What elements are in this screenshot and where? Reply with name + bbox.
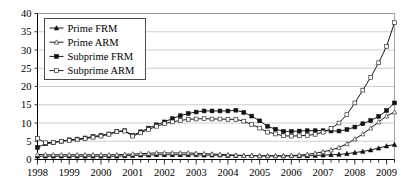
data-point-marker [377, 61, 381, 65]
chart-legend: Prime FRMPrime ARMSubprime FRMSubprime A… [45, 19, 146, 80]
x-tick-label: 2004 [217, 167, 239, 178]
data-point-marker [91, 135, 95, 139]
y-axis-ticks: 0510152025303540 [21, 8, 38, 165]
data-point-marker [385, 44, 389, 48]
data-point-marker [258, 126, 262, 130]
data-point-marker [234, 108, 238, 112]
data-point-marker [194, 117, 198, 121]
data-point-marker [369, 119, 373, 123]
legend-marker-icon [55, 55, 59, 59]
y-tick-label: 20 [21, 81, 32, 92]
data-point-marker [282, 134, 286, 138]
x-tick-label: 2003 [186, 167, 207, 178]
y-tick-label: 40 [21, 8, 32, 19]
data-point-marker [353, 137, 357, 141]
data-point-marker [345, 113, 349, 117]
data-point-marker [305, 129, 309, 133]
delinquency-rate-line-chart: 0510152025303540 19981999200020012002200… [0, 0, 406, 195]
legend-item-label: Subprime ARM [68, 65, 135, 76]
data-point-marker [266, 130, 270, 134]
data-point-marker [392, 110, 396, 114]
data-point-marker [59, 139, 63, 143]
data-point-marker [115, 130, 119, 134]
data-point-marker [345, 128, 349, 132]
data-point-marker [210, 109, 214, 113]
data-point-marker [274, 127, 278, 131]
data-point-marker [274, 132, 278, 136]
data-point-marker [67, 139, 71, 143]
data-point-marker [313, 129, 317, 133]
data-point-marker [337, 121, 341, 125]
data-point-marker [234, 117, 238, 121]
x-tick-label: 1999 [59, 167, 80, 178]
data-point-marker [305, 134, 309, 138]
data-point-marker [250, 123, 254, 127]
data-point-marker [353, 101, 357, 105]
data-point-marker [313, 132, 317, 136]
x-tick-label: 2001 [122, 167, 143, 178]
data-point-marker [178, 119, 182, 123]
data-point-marker [393, 101, 397, 105]
legend-item-label: Prime ARM [68, 37, 120, 48]
data-point-marker [361, 88, 365, 92]
data-point-marker [297, 129, 301, 133]
data-point-marker [202, 117, 206, 121]
data-point-marker [202, 109, 206, 113]
series-prime-arm [35, 110, 396, 158]
legend-item-label: Subprime FRM [68, 51, 134, 62]
data-point-marker [321, 130, 325, 134]
data-point-marker [75, 138, 79, 142]
x-axis-ticks: 1998199920002001200220032004200520062007… [27, 160, 397, 178]
y-tick-label: 15 [21, 99, 32, 110]
data-point-marker [51, 140, 55, 144]
data-point-marker [36, 136, 40, 140]
data-point-marker [369, 75, 373, 79]
data-point-marker [345, 142, 349, 146]
data-point-marker [226, 109, 230, 113]
data-point-marker [155, 124, 159, 128]
data-point-marker [147, 128, 151, 132]
data-point-marker [163, 122, 167, 126]
data-point-marker [266, 124, 270, 128]
data-point-marker [282, 129, 286, 133]
data-point-marker [139, 131, 143, 135]
data-point-marker [107, 132, 111, 136]
data-point-marker [186, 112, 190, 116]
data-point-marker [226, 117, 230, 121]
data-point-marker [186, 117, 190, 121]
y-tick-label: 25 [21, 63, 32, 74]
legend-item-label: Prime FRM [68, 23, 119, 34]
x-tick-label: 2000 [90, 167, 111, 178]
data-point-marker [329, 127, 333, 131]
data-point-marker [83, 137, 87, 141]
data-point-marker [361, 122, 365, 126]
data-point-marker [258, 119, 262, 123]
legend-marker-icon [55, 69, 59, 73]
y-tick-label: 0 [26, 154, 31, 165]
y-tick-label: 10 [21, 118, 32, 129]
data-point-marker [123, 129, 127, 133]
data-point-marker [36, 146, 40, 150]
series-subprime-frm [36, 101, 397, 149]
y-tick-label: 5 [26, 136, 31, 147]
x-tick-label: 2007 [313, 167, 334, 178]
data-point-marker [393, 21, 397, 25]
x-tick-label: 2008 [344, 167, 365, 178]
data-point-marker [218, 109, 222, 113]
data-point-marker [210, 117, 214, 121]
data-point-marker [289, 134, 293, 138]
data-point-marker [178, 114, 182, 118]
data-point-marker [170, 120, 174, 124]
x-tick-label: 2009 [376, 167, 397, 178]
data-point-marker [194, 110, 198, 114]
data-point-marker [242, 119, 246, 123]
data-point-marker [242, 111, 246, 115]
chart-canvas: 0510152025303540 19981999200020012002200… [0, 0, 406, 195]
data-point-marker [218, 117, 222, 121]
data-point-marker [289, 129, 293, 133]
x-tick-label: 1998 [27, 167, 48, 178]
data-point-marker [337, 129, 341, 133]
y-tick-label: 35 [21, 26, 32, 37]
data-point-marker [384, 114, 388, 118]
x-tick-label: 2005 [249, 167, 270, 178]
